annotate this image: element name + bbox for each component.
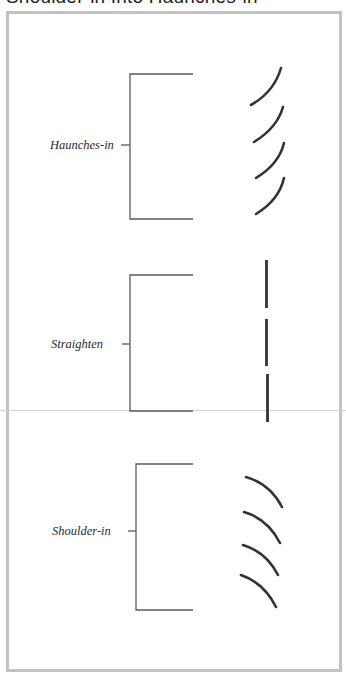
label-shoulder-in: Shoulder-in	[52, 524, 111, 538]
arc-mark	[251, 68, 281, 105]
arc-mark	[241, 575, 276, 607]
bracket-straighten	[122, 275, 193, 411]
bracket-shoulder-in	[128, 464, 193, 610]
track-marks-straighten	[267, 260, 268, 422]
track-marks-shoulder-in	[241, 477, 282, 607]
arc-mark	[254, 107, 283, 142]
section-shoulder-in	[128, 464, 282, 610]
section-haunches-in	[121, 68, 284, 219]
track-marks-haunches-in	[251, 68, 284, 214]
arc-mark	[256, 178, 284, 214]
arc-mark	[246, 477, 282, 507]
label-haunches-in: Haunches-in	[50, 138, 114, 152]
arc-mark	[243, 545, 278, 575]
arc-mark	[256, 143, 284, 178]
label-straighten: Straighten	[51, 337, 103, 351]
section-straighten	[122, 260, 268, 422]
bracket-haunches-in	[121, 74, 193, 219]
arc-mark	[244, 512, 280, 543]
